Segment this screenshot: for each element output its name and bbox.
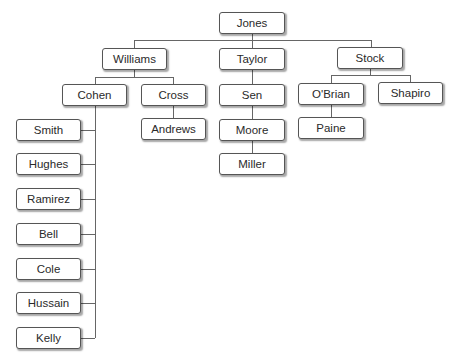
node-cohen: Cohen [62,84,127,106]
node-label: Smith [34,124,63,136]
node-sen: Sen [219,84,285,106]
org-chart: Jones Williams Taylor Stock Cohen Cross … [0,0,457,363]
node-label: Andrews [151,123,196,135]
node-ramirez: Ramirez [16,188,81,210]
node-label: Kelly [36,332,61,344]
node-paine: Paine [298,117,364,139]
node-label: Shapiro [391,87,431,99]
node-label: Paine [316,122,345,134]
node-stock: Stock [337,47,403,69]
node-label: Hughes [29,158,69,170]
node-taylor: Taylor [219,48,285,70]
node-label: Sen [242,89,262,101]
node-jones: Jones [219,12,285,34]
node-cross: Cross [141,84,206,106]
node-andrews: Andrews [141,118,206,140]
node-smith: Smith [16,119,81,141]
node-obrian: O'Brian [298,83,364,105]
node-label: Cross [158,89,188,101]
node-label: Miller [238,158,265,170]
node-label: Williams [113,53,156,65]
node-label: Bell [39,228,58,240]
node-cole: Cole [16,258,81,280]
node-williams: Williams [102,48,167,70]
node-label: Ramirez [27,193,70,205]
node-label: Stock [356,52,385,64]
node-hughes: Hughes [16,153,81,175]
node-label: Cole [37,263,61,275]
node-label: Jones [237,17,268,29]
node-label: Taylor [237,53,268,65]
node-bell: Bell [16,223,81,245]
node-moore: Moore [219,119,285,141]
node-label: Cohen [78,89,112,101]
node-label: Hussain [28,297,70,309]
node-kelly: Kelly [16,327,81,349]
node-hussain: Hussain [16,292,81,314]
node-shapiro: Shapiro [378,82,443,104]
node-miller: Miller [219,153,285,175]
node-label: O'Brian [312,88,350,100]
node-label: Moore [236,124,269,136]
